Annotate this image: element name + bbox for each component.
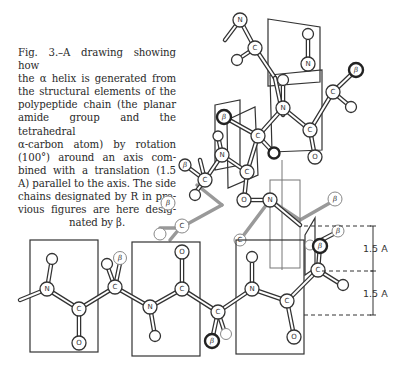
alpha-helix-diagram: .bond { stroke:#333; stroke-width:4.5; s… [0,0,402,366]
svg-text:C: C [180,285,185,293]
svg-text:β: β [182,161,187,169]
svg-text:N: N [280,104,285,112]
svg-text:C: C [113,283,118,291]
svg-text:β: β [221,113,226,121]
svg-text:C: C [308,126,313,134]
svg-text:C: C [180,222,185,230]
svg-text:C: C [245,168,250,176]
svg-text:O: O [179,248,185,256]
svg-text:C: C [285,297,290,305]
svg-text:N: N [305,60,310,68]
svg-text:N: N [237,16,242,24]
svg-text:β: β [209,337,214,345]
svg-text:C: C [77,305,82,313]
svg-text:C: C [331,88,336,96]
svg-text:β: β [353,66,358,74]
svg-text:β: β [317,242,322,250]
svg-text:N: N [249,285,254,293]
svg-text:N: N [219,151,224,159]
amide-plane [30,240,98,352]
svg-text:C: C [253,44,258,52]
svg-text:O: O [312,153,318,161]
dimension-label-lower: 1.5 A [363,288,388,299]
svg-text:O: O [241,196,247,204]
svg-text:C: C [316,266,321,274]
svg-text:N: N [267,196,272,204]
svg-text:O: O [76,339,82,347]
svg-text:C: C [203,176,208,184]
dimension-label-upper: 1.5 A [363,243,388,254]
svg-text:C: C [216,308,221,316]
svg-text:β: β [335,227,340,235]
svg-text:N: N [147,303,152,311]
svg-text:O: O [291,333,297,341]
svg-text:C: C [256,132,261,140]
svg-text:β: β [332,195,337,203]
extended-chain: N C O C β N C O C β N C O C β [20,239,349,356]
svg-text:β: β [117,254,122,262]
svg-text:β: β [165,199,170,207]
svg-text:N: N [44,285,49,293]
